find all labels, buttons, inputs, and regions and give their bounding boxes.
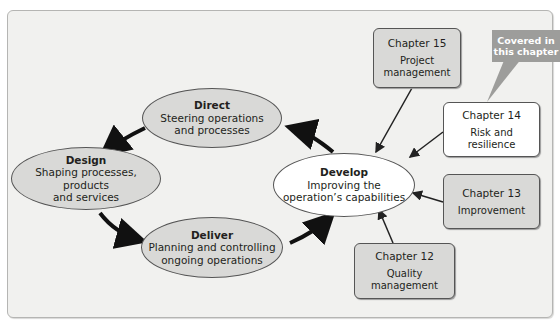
chapter-14-box: Chapter 14 Risk and resilience — [443, 102, 540, 157]
chapter-15-line2: management — [384, 67, 451, 79]
chapter-13-box: Chapter 13 Improvement — [443, 174, 540, 229]
chapter-14-number: Chapter 14 — [462, 109, 521, 121]
node-direct-line1: Steering operations — [160, 112, 263, 125]
node-direct-line2: and processes — [174, 124, 249, 137]
node-develop: Develop Improving the operation’s capabi… — [273, 153, 415, 217]
chapter-15-number: Chapter 15 — [388, 37, 447, 49]
node-develop-line1: Improving the — [307, 179, 381, 192]
chapter-12-line2: management — [371, 280, 438, 292]
chapter-12-box: Chapter 12 Quality management — [354, 243, 455, 299]
chapter-15-box: Chapter 15 Project management — [373, 28, 461, 88]
covered-callout: Covered in this chapter — [492, 30, 560, 62]
node-direct: Direct Steering operations and processes — [142, 88, 282, 148]
callout-line2: this chapter — [494, 46, 559, 57]
node-design-line1: Shaping processes, products — [12, 166, 160, 191]
node-design: Design Shaping processes, products and s… — [11, 147, 161, 210]
chapter-14-line1: Risk and — [470, 127, 513, 139]
chapter-14-line2: resilience — [468, 139, 516, 151]
node-deliver-line1: Planning and controlling — [148, 241, 275, 254]
callout-line1: Covered in — [497, 35, 554, 46]
node-develop-title: Develop — [320, 166, 368, 179]
node-design-line2: and services — [53, 191, 119, 204]
chapter-12-line1: Quality — [387, 268, 423, 280]
node-deliver-title: Deliver — [191, 229, 233, 242]
chapter-15-line1: Project — [400, 55, 434, 67]
chapter-13-number: Chapter 13 — [462, 187, 521, 199]
node-direct-title: Direct — [194, 99, 230, 112]
node-design-title: Design — [66, 154, 107, 167]
chapter-13-line1: Improvement — [458, 205, 525, 217]
node-deliver-line2: ongoing operations — [161, 254, 263, 267]
node-develop-line2: operation’s capabilities — [283, 191, 405, 204]
chapter-12-number: Chapter 12 — [375, 250, 434, 262]
node-deliver: Deliver Planning and controlling ongoing… — [141, 217, 283, 278]
